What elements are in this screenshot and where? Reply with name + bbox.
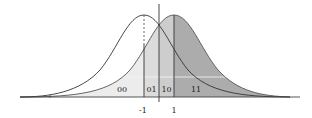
region-label-00: 00	[117, 85, 127, 94]
region-label-11: 11	[191, 85, 201, 94]
gaussian-bit-regions-diagram: 00 01 10 11 -1 1	[0, 0, 312, 118]
region-label-01: 01	[146, 85, 156, 94]
tick-label-minus-1: -1	[139, 106, 147, 115]
right-curve-fill	[0, 0, 312, 97]
tick-label-1: 1	[171, 106, 176, 115]
region-label-10: 10	[161, 85, 171, 94]
